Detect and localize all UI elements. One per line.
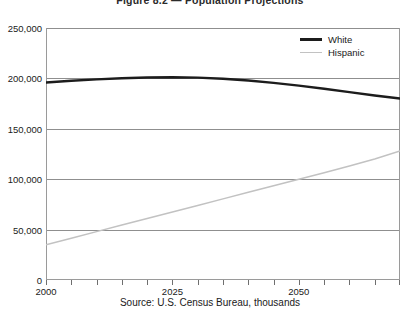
x-axis-tick — [71, 280, 72, 285]
x-axis-tick — [147, 280, 148, 285]
page-title: Figure 8.2 — Population Projections — [0, 0, 420, 6]
legend-swatch-hispanic-icon — [300, 52, 322, 53]
x-axis-tick — [299, 280, 300, 285]
x-axis-ticks — [46, 280, 400, 285]
x-axis-tick — [122, 280, 123, 285]
series-plot — [46, 28, 400, 280]
chart-legend: White Hispanic — [300, 33, 364, 59]
legend-label-hispanic: Hispanic — [328, 46, 364, 59]
series-line-hispanic — [46, 151, 400, 245]
y-axis-tick-label: 150,000 — [8, 123, 42, 134]
x-axis-tick-label: 2050 — [288, 286, 309, 297]
y-axis-tick-label: 250,000 — [8, 23, 42, 34]
legend-item-white[interactable]: White — [300, 33, 364, 46]
legend-label-white: White — [328, 33, 352, 46]
x-axis-tick — [223, 280, 224, 285]
x-axis-tick — [46, 280, 47, 285]
x-axis-tick — [399, 280, 400, 285]
y-axis-tick-label: 200,000 — [8, 73, 42, 84]
source-caption: Source: U.S. Census Bureau, thousands — [0, 297, 420, 308]
x-axis-tick-label: 2025 — [162, 286, 183, 297]
x-axis-tick — [172, 280, 173, 285]
x-axis-tick — [274, 280, 275, 285]
x-axis-tick — [248, 280, 249, 285]
x-axis-tick — [198, 280, 199, 285]
x-axis-tick — [375, 280, 376, 285]
y-axis-tick-label: 50,000 — [13, 224, 42, 235]
legend-item-hispanic[interactable]: Hispanic — [300, 46, 364, 59]
series-line-white — [46, 77, 400, 98]
x-axis-tick — [349, 280, 350, 285]
figure-root: Figure 8.2 — Population Projections 050,… — [0, 0, 420, 314]
y-axis-tick-label: 100,000 — [8, 174, 42, 185]
y-axis-labels: 050,000100,000150,000200,000250,000 — [0, 28, 42, 280]
y-axis-tick-label: 0 — [37, 275, 42, 286]
x-axis-tick-label: 2000 — [35, 286, 56, 297]
legend-swatch-white-icon — [300, 38, 322, 41]
x-axis-tick — [324, 280, 325, 285]
x-axis-tick — [97, 280, 98, 285]
